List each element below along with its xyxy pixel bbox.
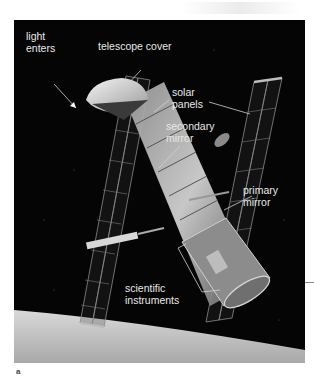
label-solar-panels: solar panels <box>172 86 203 110</box>
label-secondary-mirror: secondary mirror <box>166 120 214 144</box>
label-solar-panels-line1: solar <box>172 86 203 98</box>
label-primary-mirror-line1: primary <box>243 184 278 196</box>
label-secondary-mirror-line2: mirror <box>166 132 214 144</box>
label-primary-mirror: primary mirror <box>243 184 278 208</box>
label-primary-mirror-line2: mirror <box>243 196 278 208</box>
label-telescope-cover-line1: telescope cover <box>98 40 172 52</box>
earth-surface <box>14 310 305 363</box>
label-solar-panels-line2: panels <box>172 98 203 110</box>
label-scientific-instruments-line1: scientific <box>125 282 179 294</box>
faint-header-smudge <box>180 2 300 14</box>
label-secondary-mirror-line1: secondary <box>166 120 214 132</box>
antenna-dish <box>212 130 232 149</box>
label-light-enters-line2: enters <box>26 42 55 54</box>
label-telescope-cover: telescope cover <box>98 40 172 52</box>
label-scientific-instruments: scientific instruments <box>125 282 179 306</box>
label-scientific-instruments-line2: instruments <box>125 294 179 306</box>
panel-letter: a <box>16 367 20 376</box>
label-light-enters-line1: light <box>26 30 55 42</box>
hubble-diagram-panel: light enters telescope cover solar panel… <box>14 20 305 363</box>
margin-tick-line <box>305 282 314 283</box>
label-light-enters: light enters <box>26 30 55 54</box>
